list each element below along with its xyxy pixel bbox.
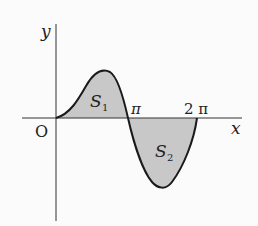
- svg-text:S: S: [90, 91, 102, 111]
- diagram: y x O π 2 π S 1 S 2: [0, 0, 258, 226]
- svg-text:2: 2: [167, 152, 173, 163]
- graph-svg: y x O π 2 π S 1 S 2: [0, 0, 258, 226]
- svg-text:S: S: [155, 141, 167, 161]
- tick-2pi-label: 2 π: [184, 100, 208, 118]
- y-axis-label: y: [40, 21, 51, 41]
- origin-label: O: [35, 122, 48, 141]
- svg-text:1: 1: [102, 102, 108, 113]
- tick-pi-label: π: [130, 100, 142, 118]
- x-axis-label: x: [231, 118, 241, 138]
